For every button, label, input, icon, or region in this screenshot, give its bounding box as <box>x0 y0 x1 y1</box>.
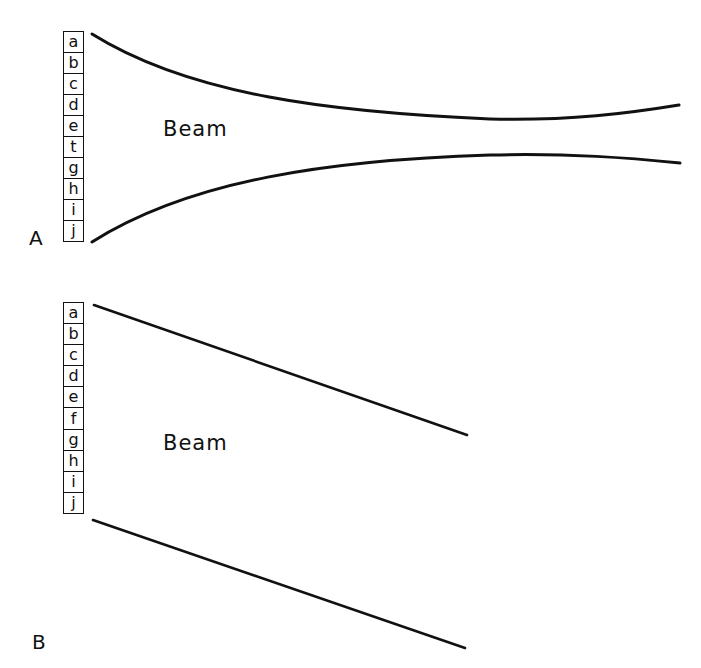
detector-cell: g <box>64 158 83 179</box>
detector-cell: a <box>64 32 83 53</box>
detector-cell: g <box>64 430 83 451</box>
detector-cell: j <box>64 493 83 513</box>
detector-cell: h <box>64 451 83 472</box>
detector-cell: c <box>64 345 83 366</box>
detector-cell: c <box>64 74 83 95</box>
panel-a: a b c d e t g h i j Beam A <box>0 0 701 280</box>
detector-cell: e <box>64 387 83 408</box>
detector-cell: t <box>64 137 83 158</box>
detector-cell: i <box>64 472 83 493</box>
panel-b: a b c d e f g h i j Beam B <box>0 280 701 668</box>
detector-cell: a <box>64 303 83 324</box>
detector-cell: b <box>64 324 83 345</box>
detector-cell: b <box>64 53 83 74</box>
detector-cell: d <box>64 366 83 387</box>
detector-cell: i <box>64 200 83 221</box>
detector-cell: j <box>64 221 83 241</box>
detector-cell: f <box>64 408 83 429</box>
detector-cell: h <box>64 179 83 200</box>
detector-cell: d <box>64 95 83 116</box>
panel-label-b: B <box>32 630 46 654</box>
detector-column-b: a b c d e f g h i j <box>63 302 84 514</box>
beam-label-a: Beam <box>163 117 228 141</box>
detector-column-a: a b c d e t g h i j <box>63 31 84 242</box>
panel-label-a: A <box>29 226 43 250</box>
detector-cell: e <box>64 116 83 137</box>
beam-label-b: Beam <box>163 431 228 455</box>
